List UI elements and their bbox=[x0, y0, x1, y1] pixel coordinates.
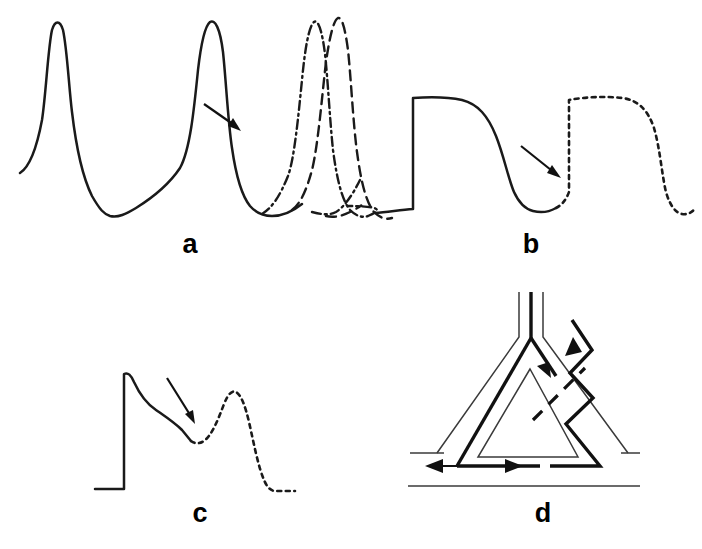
panel-label-a: a bbox=[182, 229, 198, 259]
panel-c: c bbox=[95, 373, 295, 528]
circuit-inner-triangle bbox=[478, 369, 578, 457]
dad-arrow bbox=[167, 378, 195, 424]
ead-triggered-response bbox=[556, 97, 696, 214]
bidirectional-spread-arrow bbox=[425, 459, 523, 473]
panel-a: a bbox=[20, 18, 392, 259]
automaticity-arrow bbox=[204, 104, 241, 131]
antegrade-arrow bbox=[537, 362, 551, 378]
common-proximal-pathway-right-rail bbox=[543, 292, 628, 453]
baseline-pacemaker-action-potentials bbox=[20, 21, 302, 216]
panel-label-d: d bbox=[535, 498, 552, 528]
panel-label-c: c bbox=[192, 498, 207, 528]
ead-arrow bbox=[521, 146, 561, 178]
dad-oscillation bbox=[191, 392, 295, 492]
panel-b: b bbox=[375, 97, 696, 259]
fast-pathway-left-limb bbox=[457, 338, 531, 466]
control-action-potential-b bbox=[375, 97, 556, 213]
panel-label-b: b bbox=[523, 229, 540, 259]
arrhythmia-mechanisms-figure: a b c bbox=[0, 0, 702, 549]
control-action-potential-c bbox=[95, 373, 191, 489]
figure-root: a b c bbox=[0, 0, 702, 549]
retrograde-arrow bbox=[565, 337, 582, 356]
panel-d: d bbox=[408, 292, 640, 528]
accelerated-beat-dash-dot-tail bbox=[312, 180, 360, 214]
